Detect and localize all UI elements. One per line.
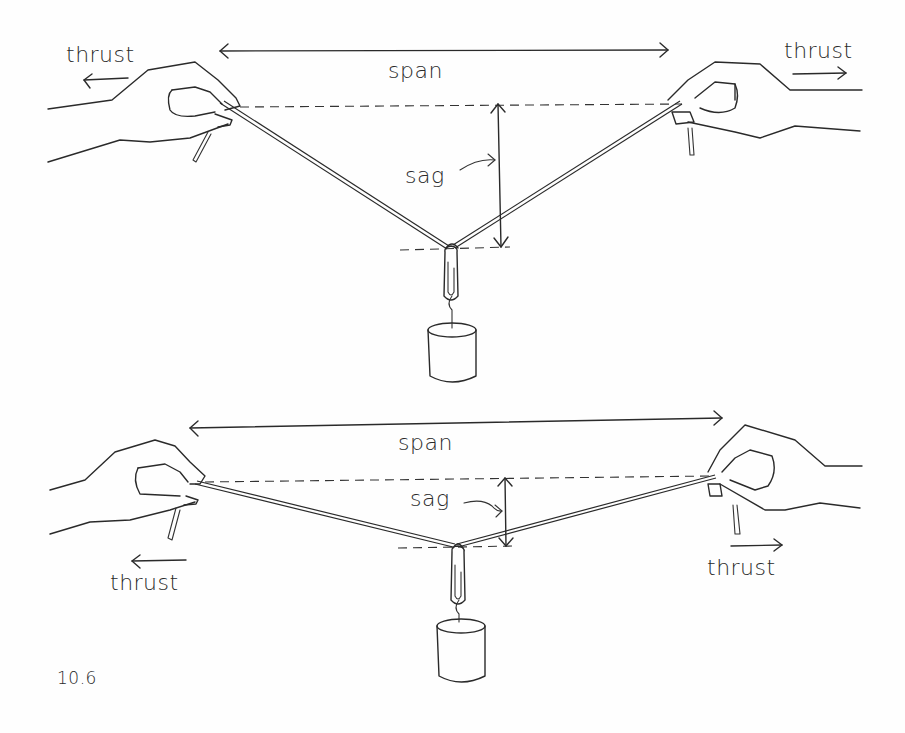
figure-number: 10.6 xyxy=(57,668,97,688)
top-diagram xyxy=(48,43,862,382)
figure-canvas: thrust thrust span sag span sag thrust t… xyxy=(0,0,905,733)
bottom-right-thrust-arrow xyxy=(731,539,782,551)
bottom-reference-line xyxy=(205,476,712,482)
top-string xyxy=(220,101,682,249)
bottom-weight-icon xyxy=(437,544,485,682)
bottom-left-thrust-arrow xyxy=(132,555,186,568)
top-left-thrust-label: thrust xyxy=(66,42,135,67)
top-weight-icon xyxy=(428,244,476,382)
top-right-hand-icon xyxy=(668,62,862,155)
bottom-span-label: span xyxy=(398,430,453,455)
top-sag-label: sag xyxy=(405,163,445,188)
bottom-left-thrust-label: thrust xyxy=(110,570,179,595)
top-right-thrust-label: thrust xyxy=(784,38,853,63)
top-span-label: span xyxy=(388,58,443,83)
top-left-thrust-arrow xyxy=(84,74,128,88)
bottom-span-arrow xyxy=(190,411,722,436)
top-span-arrow xyxy=(220,43,668,58)
top-left-hand-icon xyxy=(48,62,240,162)
bottom-right-thrust-label: thrust xyxy=(707,555,776,580)
bottom-diagram xyxy=(50,411,862,682)
bottom-string xyxy=(195,475,716,547)
bottom-right-hand-icon xyxy=(708,425,862,534)
top-right-thrust-arrow xyxy=(793,67,846,79)
top-reference-line xyxy=(240,104,682,107)
bottom-sag-label: sag xyxy=(410,486,450,511)
diagram-drawing xyxy=(0,0,905,733)
bottom-left-hand-icon xyxy=(50,440,205,540)
